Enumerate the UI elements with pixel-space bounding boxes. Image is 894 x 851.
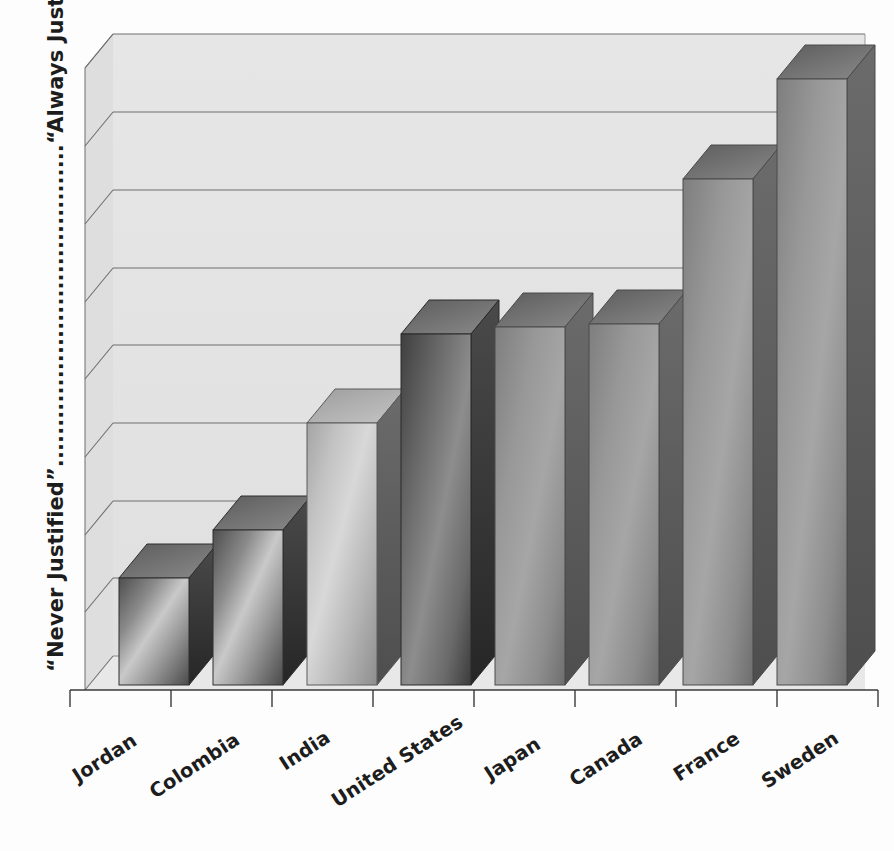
x-label-jordan: Jordan [67, 729, 141, 789]
x-label-japan: Japan [479, 732, 545, 786]
x-axis-category-labels: Jordan Colombia India United States Japa… [67, 710, 843, 812]
x-axis-ticks [70, 690, 878, 707]
bar-sweden[interactable] [777, 45, 875, 685]
bar-united-states[interactable] [401, 300, 499, 685]
x-axis [70, 690, 878, 707]
x-label-united-states: United States [327, 710, 467, 812]
bar-jordan[interactable] [119, 544, 217, 685]
x-label-france: France [669, 727, 744, 787]
bar-japan[interactable] [495, 293, 593, 685]
x-label-india: India [275, 726, 334, 775]
x-label-canada: Canada [565, 727, 646, 791]
bar-france[interactable] [683, 145, 781, 685]
x-label-sweden: Sweden [757, 727, 842, 794]
bar-canada[interactable] [589, 290, 687, 685]
bar-chart-3d: “Never Justified”.......................… [0, 0, 894, 851]
bar-india[interactable] [307, 389, 405, 685]
x-label-colombia: Colombia [145, 728, 244, 803]
bar-colombia[interactable] [213, 496, 311, 685]
y-axis-label-text: “Never Justified”.......................… [44, 0, 68, 672]
y-axis-label: “Never Justified”.......................… [44, 0, 68, 672]
chart-container: “Never Justified”.......................… [0, 0, 894, 851]
